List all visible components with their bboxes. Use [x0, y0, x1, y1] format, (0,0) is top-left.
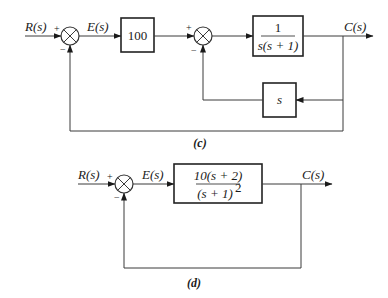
gain-value: 100	[128, 28, 148, 43]
plus-sign: +	[54, 23, 60, 34]
summing-junction-1	[61, 27, 79, 45]
feedback-value: s	[277, 92, 282, 107]
outer-feedback-line	[70, 45, 343, 131]
summing-junction	[115, 175, 133, 193]
plant-denominator: (s + 1)	[197, 186, 233, 201]
input-label: R(s)	[77, 167, 100, 182]
output-label: C(s)	[344, 19, 366, 34]
error-label: E(s)	[86, 19, 109, 34]
plus-sign: +	[107, 171, 113, 182]
input-label: R(s)	[24, 19, 47, 34]
caption-c: (c)	[193, 136, 206, 150]
diagram-c: R(s) + − E(s) 100 + − 1 s(s + 1)	[24, 16, 373, 150]
plant-denominator: s(s + 1)	[258, 38, 299, 53]
minus-sign: −	[60, 44, 66, 55]
caption-d: (d)	[187, 276, 201, 290]
minus-sign: −	[114, 192, 120, 203]
plant-denominator-exponent: 2	[235, 180, 242, 195]
summing-junction-2	[194, 27, 212, 45]
minus-sign: −	[191, 45, 197, 56]
output-label: C(s)	[302, 167, 324, 182]
plant-numerator: 1	[275, 20, 282, 35]
block-diagrams: R(s) + − E(s) 100 + − 1 s(s + 1)	[0, 0, 388, 298]
plus-sign: +	[186, 22, 192, 33]
diagram-d: R(s) + − E(s) 10(s + 2) (s + 1) 2 C(s) (…	[77, 164, 332, 290]
error-label: E(s)	[141, 167, 164, 182]
